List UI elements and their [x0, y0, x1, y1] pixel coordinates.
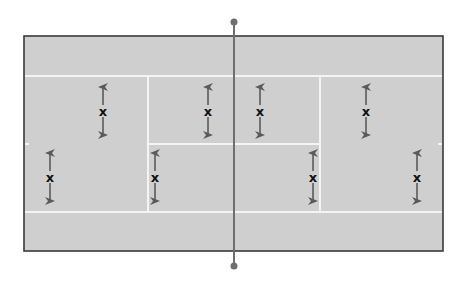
player-x-label: x — [99, 104, 108, 119]
net-post-bottom-icon — [231, 263, 238, 270]
player-x-label: x — [309, 170, 318, 185]
player-x-label: x — [151, 170, 160, 185]
net-post-top-icon — [231, 19, 238, 26]
player-x-label: x — [204, 104, 213, 119]
tennis-court-diagram: xxxxxxxx — [0, 0, 465, 284]
player-x-label: x — [362, 104, 371, 119]
player-x-label: x — [256, 104, 265, 119]
player-x-label: x — [413, 170, 422, 185]
player-x-label: x — [46, 170, 55, 185]
